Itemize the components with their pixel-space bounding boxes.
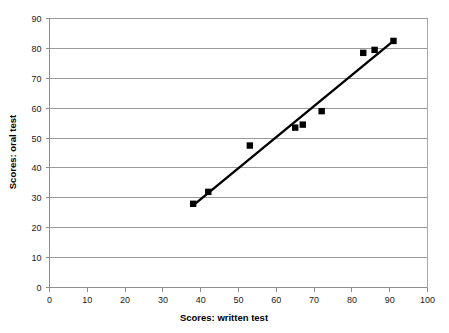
x-tick-label-20: 20 (120, 295, 130, 305)
y-tick-label-50: 50 (31, 134, 41, 144)
data-point (360, 50, 366, 56)
y-tick-label-60: 60 (31, 104, 41, 114)
trendline (193, 41, 393, 205)
y-tick-label-10: 10 (31, 253, 41, 263)
scatter-chart: 0102030405060708090100 01020304050607080… (0, 0, 449, 333)
x-tick-label-70: 70 (309, 295, 319, 305)
y-axis-title: Scores: oral test (7, 114, 18, 189)
y-tick-label-80: 80 (31, 44, 41, 54)
x-tick-label-0: 0 (47, 295, 52, 305)
x-tick-label-100: 100 (420, 295, 435, 305)
x-tick-label-80: 80 (347, 295, 357, 305)
y-tick-label-70: 70 (31, 74, 41, 84)
data-point (318, 108, 324, 114)
y-tick-label-30: 30 (31, 193, 41, 203)
y-tick-label-20: 20 (31, 223, 41, 233)
y-axis-ticks-group: 0102030405060708090 (31, 14, 49, 293)
data-point (247, 142, 253, 148)
x-axis-title: Scores: written test (180, 312, 269, 323)
x-tick-label-10: 10 (82, 295, 92, 305)
trendline-group (193, 41, 393, 205)
y-tick-label-90: 90 (31, 14, 41, 24)
data-point (390, 38, 396, 44)
x-tick-label-50: 50 (233, 295, 243, 305)
data-point (190, 201, 196, 207)
data-point (292, 124, 298, 130)
data-point (300, 121, 306, 127)
x-tick-label-30: 30 (158, 295, 168, 305)
x-axis-ticks-group: 0102030405060708090100 (47, 288, 435, 305)
data-point (371, 47, 377, 53)
x-tick-label-90: 90 (385, 295, 395, 305)
x-tick-label-40: 40 (196, 295, 206, 305)
x-tick-label-60: 60 (271, 295, 281, 305)
y-tick-label-0: 0 (36, 283, 41, 293)
data-point (205, 189, 211, 195)
y-tick-label-40: 40 (31, 163, 41, 173)
chart-canvas: 0102030405060708090100 01020304050607080… (0, 0, 449, 333)
